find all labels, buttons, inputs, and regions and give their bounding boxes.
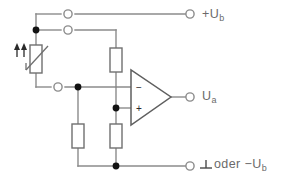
terminal-ground[interactable] — [186, 162, 194, 170]
label-supply-positive-subscript: b — [219, 13, 224, 23]
terminal-supply-positive[interactable] — [186, 10, 194, 18]
terminal-supply-left-top[interactable] — [64, 10, 72, 18]
earth-ground-symbol — [200, 160, 212, 168]
node-ground-rail — [113, 163, 120, 170]
resistor-lower-divider — [110, 124, 122, 148]
label-output: Ua — [202, 90, 216, 103]
label-ground-text: oder −U — [214, 157, 262, 171]
terminal-input-left[interactable] — [54, 83, 62, 91]
label-ground-subscript: b — [262, 163, 267, 173]
circuit-diagram: − + — [0, 0, 287, 185]
terminal-output[interactable] — [186, 93, 194, 101]
opamp-noninverting-sign: + — [136, 103, 142, 114]
operational-amplifier — [131, 70, 171, 125]
resistor-lower-left — [72, 124, 84, 148]
label-supply-positive-text: +U — [202, 7, 219, 21]
label-ground: oder −Ub — [214, 158, 267, 171]
node-inverting-input — [75, 84, 82, 91]
terminal-supply-left-second[interactable] — [64, 26, 72, 34]
label-output-subscript: a — [211, 95, 216, 105]
light-arrows-icon — [14, 43, 27, 57]
opamp-inverting-sign: − — [136, 82, 142, 93]
node-noninverting-input — [113, 105, 120, 112]
node-supply-left — [33, 27, 40, 34]
label-supply-positive: +Ub — [202, 8, 224, 21]
resistor-upper-divider — [110, 48, 122, 72]
